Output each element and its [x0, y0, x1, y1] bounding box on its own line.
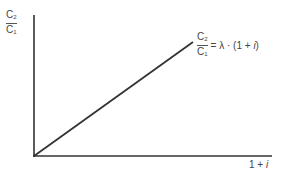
x-axis-label: 1 + i [249, 159, 268, 170]
proportional-line [34, 42, 193, 156]
y-label-denominator: C1 [6, 25, 17, 37]
line-equation-label: C2 C1 = λ · (1 + i) [197, 32, 259, 59]
line-label-numerator: C2 [197, 32, 208, 44]
line-label-rhs: = λ · (1 + i) [211, 40, 259, 51]
y-axis-label: C2 C1 [6, 10, 17, 37]
line-label-denominator: C1 [197, 47, 208, 59]
line-label-fraction: C2 C1 [197, 32, 208, 59]
diagram-canvas [0, 0, 288, 177]
y-label-numerator: C2 [6, 10, 17, 22]
